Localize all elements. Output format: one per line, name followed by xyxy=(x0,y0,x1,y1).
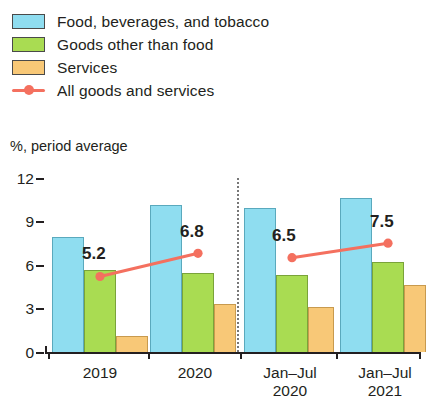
x-tick-1 xyxy=(148,352,150,359)
value-label-2020: 6.8 xyxy=(180,222,204,242)
x-tick-0 xyxy=(48,352,50,359)
x-tick-2 xyxy=(240,352,242,359)
value-label-janjul2020: 6.5 xyxy=(272,226,296,246)
x-tick-3 xyxy=(336,352,338,359)
x-axis-label-janjul2020-line1: Jan–Jul xyxy=(248,364,332,382)
x-axis-label-2020-line1: 2020 xyxy=(155,364,235,382)
x-axis-label-janjul2020-line2: 2020 xyxy=(248,382,332,400)
x-axis-label-2020: 2020 xyxy=(155,364,235,382)
chart-plot-area: 12 9 6 3 0 5.2 6.8 xyxy=(0,0,427,404)
x-axis-baseline xyxy=(45,352,420,354)
value-label-2019: 5.2 xyxy=(82,244,106,264)
value-label-janjul2021: 7.5 xyxy=(370,212,394,232)
x-axis-label-janjul2021: Jan–Jul 2021 xyxy=(343,364,427,400)
x-axis-label-2019-line1: 2019 xyxy=(60,364,140,382)
x-axis-label-janjul2020: Jan–Jul 2020 xyxy=(248,364,332,400)
x-axis-label-janjul2021-line2: 2021 xyxy=(343,382,427,400)
x-axis-label-janjul2021-line1: Jan–Jul xyxy=(343,364,427,382)
x-axis-label-2019: 2019 xyxy=(60,364,140,382)
x-tick-4 xyxy=(419,352,421,359)
line-series-all-goods-services xyxy=(0,0,427,404)
